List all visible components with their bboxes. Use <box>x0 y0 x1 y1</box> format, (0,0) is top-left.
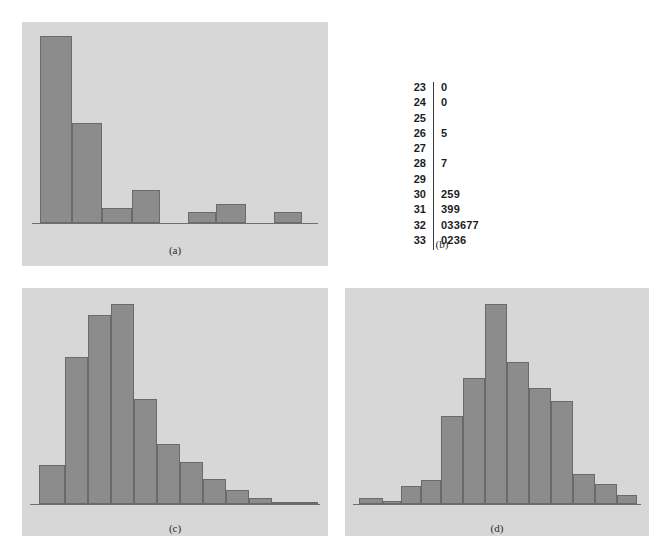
bar-d-13 <box>617 495 637 504</box>
stem-leaf-row: 32 033677 <box>404 218 479 233</box>
stem-value: 25 <box>404 111 433 126</box>
bar-c-9 <box>226 490 249 504</box>
leaf-values: 033677 <box>433 218 479 233</box>
bar-d-8 <box>507 362 529 504</box>
bar-a-1 <box>40 36 72 223</box>
plot-area-c <box>22 288 328 536</box>
bar-d-2 <box>383 501 401 504</box>
histogram-panel-d <box>345 288 649 536</box>
leaf-values: 0 <box>433 80 447 95</box>
plot-area-a <box>22 22 328 266</box>
bar-d-10 <box>551 401 573 504</box>
stem-value: 23 <box>404 80 433 95</box>
stem-value: 31 <box>404 202 433 217</box>
caption-c: (c) <box>22 522 328 534</box>
bar-a-9 <box>274 212 302 223</box>
bar-d-6 <box>463 378 485 504</box>
bar-c-5 <box>134 399 157 504</box>
figure-container: (a) 23 0 24 0 25 26 5 27 <box>0 0 659 558</box>
bar-d-12 <box>595 484 617 504</box>
caption-b: (b) <box>352 238 532 250</box>
bar-c-8 <box>203 479 226 504</box>
stem-leaf-row: 23 0 <box>404 80 479 95</box>
stem-leaf-row: 30 259 <box>404 187 479 202</box>
stem-and-leaf-display: 23 0 24 0 25 26 5 27 28 7 <box>404 80 479 248</box>
bar-c-3 <box>88 315 111 504</box>
stem-value: 27 <box>404 141 433 156</box>
stem-leaf-row: 29 <box>404 172 479 187</box>
stem-value: 32 <box>404 218 433 233</box>
stem-value: 30 <box>404 187 433 202</box>
stem-leaf-row: 25 <box>404 111 479 126</box>
histogram-panel-c <box>22 288 328 536</box>
stem-value: 26 <box>404 126 433 141</box>
leaf-values: 259 <box>433 187 460 202</box>
bar-a-2 <box>72 123 102 223</box>
bar-d-7 <box>485 304 507 504</box>
stem-leaf-row: 28 7 <box>404 156 479 171</box>
bar-d-3 <box>401 486 421 504</box>
plot-area-d <box>345 288 649 536</box>
caption-d: (d) <box>345 522 649 534</box>
stem-value: 28 <box>404 156 433 171</box>
bar-d-11 <box>573 474 595 504</box>
bar-c-12 <box>295 502 318 504</box>
bar-d-1 <box>359 498 383 504</box>
bar-a-4 <box>132 190 160 223</box>
bar-c-2 <box>65 357 88 504</box>
bar-c-4 <box>111 304 134 504</box>
leaf-values: 399 <box>433 202 460 217</box>
bar-a-6 <box>188 212 216 223</box>
histogram-panel-a <box>22 22 328 266</box>
bar-d-5 <box>441 416 463 504</box>
bar-d-4 <box>421 480 441 504</box>
bar-c-1 <box>39 465 65 504</box>
bar-c-7 <box>180 462 203 504</box>
leaf-values: 0 <box>433 95 447 110</box>
bar-a-7 <box>216 204 246 223</box>
bar-c-10 <box>249 498 272 504</box>
stem-leaf-row: 24 0 <box>404 95 479 110</box>
leaf-values: 7 <box>433 156 447 171</box>
bar-c-6 <box>157 444 180 504</box>
bar-c-11 <box>272 502 295 504</box>
stem-value: 29 <box>404 172 433 187</box>
stem-value: 24 <box>404 95 433 110</box>
bar-a-3 <box>102 208 132 223</box>
stem-and-leaf-panel-b: 23 0 24 0 25 26 5 27 28 7 <box>352 22 642 266</box>
stem-leaf-row: 31 399 <box>404 202 479 217</box>
leaf-values: 5 <box>433 126 447 141</box>
stem-leaf-row: 27 <box>404 141 479 156</box>
bar-d-9 <box>529 388 551 504</box>
caption-a: (a) <box>22 244 328 256</box>
stem-leaf-row: 26 5 <box>404 126 479 141</box>
